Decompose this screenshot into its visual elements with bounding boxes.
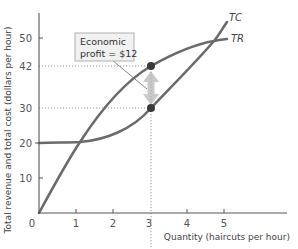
y-tick-label-20: 20 bbox=[19, 138, 32, 149]
callout-leader-line bbox=[112, 60, 147, 89]
x-tick-label-3: 3 bbox=[146, 218, 152, 229]
y-tick-label-10: 10 bbox=[19, 173, 32, 184]
tr-label: TR bbox=[231, 33, 244, 44]
economic-profit-callout: Economic profit = $12 bbox=[75, 33, 137, 61]
profit-chart: 10 20 30 42 50 0 1 2 3 4 5 Quantity (hai… bbox=[0, 0, 298, 249]
callout-line-1: Economic bbox=[80, 36, 126, 47]
y-tick-label-42: 42 bbox=[19, 61, 32, 72]
x-ticks bbox=[76, 209, 224, 213]
x-tick-label-1: 1 bbox=[73, 218, 79, 229]
x-tick-label-2: 2 bbox=[110, 218, 116, 229]
callout-line-2: profit = $12 bbox=[80, 48, 137, 59]
y-axis-title: Total revenue and total cost (dollars pe… bbox=[3, 27, 13, 235]
origin-label: 0 bbox=[29, 218, 35, 229]
x-tick-label-5: 5 bbox=[221, 218, 227, 229]
tc-point-q3 bbox=[147, 104, 155, 112]
x-tick-label-4: 4 bbox=[184, 218, 190, 229]
x-axis-title: Quantity (haircuts per hour) bbox=[164, 232, 290, 242]
tr-curve bbox=[39, 39, 227, 213]
y-tick-label-30: 30 bbox=[19, 103, 32, 114]
y-tick-label-50: 50 bbox=[19, 33, 32, 44]
tc-label: TC bbox=[229, 12, 242, 23]
tr-point-q3 bbox=[147, 62, 155, 70]
